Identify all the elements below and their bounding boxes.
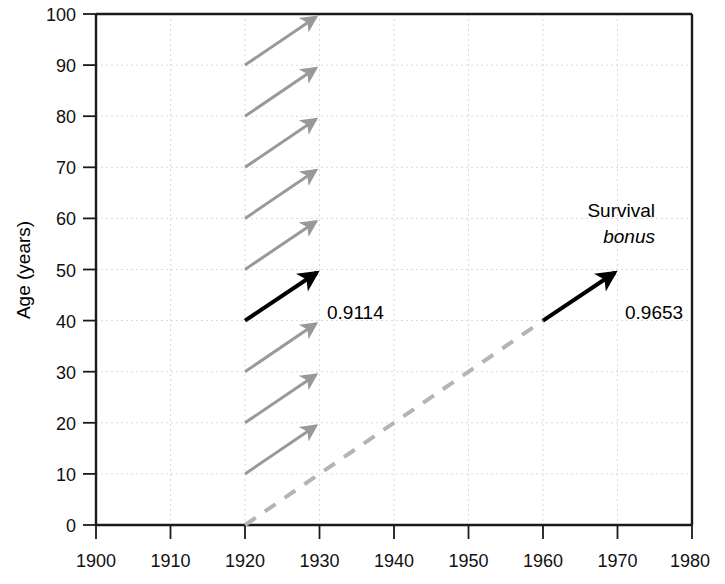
ytick-label-0: 0: [66, 516, 76, 536]
ytick-label-10: 10: [56, 465, 76, 485]
xtick-label-1930: 1930: [299, 551, 339, 571]
xtick-label-1960: 1960: [523, 551, 563, 571]
xtick-label-1950: 1950: [448, 551, 488, 571]
ytick-label-100: 100: [46, 5, 76, 25]
x-tick-labels: 1900 1910 1920 1930 1940 1950 1960 1970 …: [76, 551, 710, 571]
xtick-label-1910: 1910: [150, 551, 190, 571]
callout-line-2: bonus: [603, 226, 655, 247]
xtick-label-1920: 1920: [225, 551, 265, 571]
chart-background: [0, 0, 725, 584]
xtick-label-1980: 1980: [670, 551, 710, 571]
xtick-label-1900: 1900: [76, 551, 116, 571]
ytick-label-90: 90: [56, 56, 76, 76]
value-label-left: 0.9114: [327, 302, 384, 323]
ytick-label-20: 20: [56, 414, 76, 434]
y-axis-title: Age (years): [13, 221, 34, 319]
ytick-label-50: 50: [56, 261, 76, 281]
ytick-label-80: 80: [56, 107, 76, 127]
xtick-label-1940: 1940: [374, 551, 414, 571]
survival-bonus-chart: 100 90 80 70 60 50 40 30 20 10 0 1900 19…: [0, 0, 725, 584]
ytick-label-40: 40: [56, 312, 76, 332]
ytick-label-70: 70: [56, 158, 76, 178]
ytick-label-60: 60: [56, 209, 76, 229]
xtick-label-1970: 1970: [597, 551, 637, 571]
value-label-right: 0.9653: [625, 302, 683, 323]
ytick-label-30: 30: [56, 363, 76, 383]
callout-line-1: Survival: [587, 200, 655, 221]
